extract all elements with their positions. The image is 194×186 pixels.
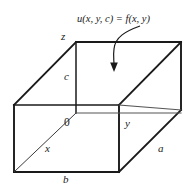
y-axis-label: y <box>124 117 130 129</box>
width-b-label: b <box>63 173 69 185</box>
box-top-face <box>14 42 181 105</box>
callout-arrow <box>110 26 140 72</box>
origin-corner-edges <box>14 42 181 172</box>
depth-a-label: a <box>158 142 164 154</box>
z-axis-label: z <box>60 30 66 42</box>
boundary-condition-label: u(x, y, c) = f(x, y) <box>77 13 150 25</box>
figure-container: u(x, y, c) = f(x, y) z c 0 y x a b <box>0 0 194 186</box>
box-diagram: u(x, y, c) = f(x, y) z c 0 y x a b <box>0 0 194 186</box>
origin-label: 0 <box>64 116 70 128</box>
height-c-label: c <box>64 70 69 82</box>
x-axis-label: x <box>44 142 50 154</box>
top-right-slant-edge <box>119 42 181 105</box>
arrow-curve-path <box>114 26 140 64</box>
right-face-upper-faint-edge <box>119 105 181 110</box>
box-right-face <box>119 42 181 172</box>
arrow-head-icon <box>110 63 118 73</box>
